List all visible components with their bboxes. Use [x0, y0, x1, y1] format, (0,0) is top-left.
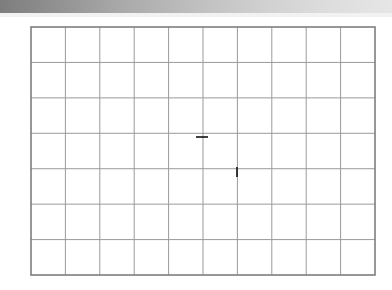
- coordinate-grid: [31, 27, 375, 275]
- complex-plane-figure: [0, 0, 392, 290]
- figure-svg: [0, 0, 392, 290]
- axis-ticks: [196, 137, 237, 177]
- figure-page: [0, 0, 392, 290]
